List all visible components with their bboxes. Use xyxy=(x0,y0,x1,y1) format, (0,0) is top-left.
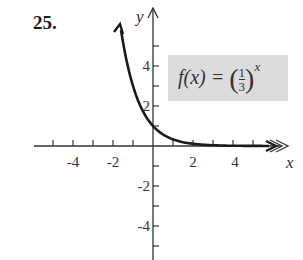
function-graph: -4 -2 2 4 4 2 -2 -4 x y xyxy=(0,0,303,260)
y-tick-label: 4 xyxy=(143,58,151,74)
x-tick-label: 2 xyxy=(189,154,197,170)
y-tick-label: -2 xyxy=(138,178,151,194)
curve-arrow-icon xyxy=(114,24,123,34)
x-tick-label: 4 xyxy=(231,154,239,170)
y-tick-label: -4 xyxy=(138,218,151,234)
x-tick-label: -4 xyxy=(67,154,80,170)
x-axis-label: x xyxy=(285,153,294,172)
x-tick-label: -2 xyxy=(107,154,120,170)
y-axis-label: y xyxy=(134,7,144,26)
formula-exponent: x xyxy=(254,59,260,74)
formula-label: f(x) = (13)x xyxy=(178,63,260,95)
formula-lhs: f(x) = xyxy=(178,66,229,88)
